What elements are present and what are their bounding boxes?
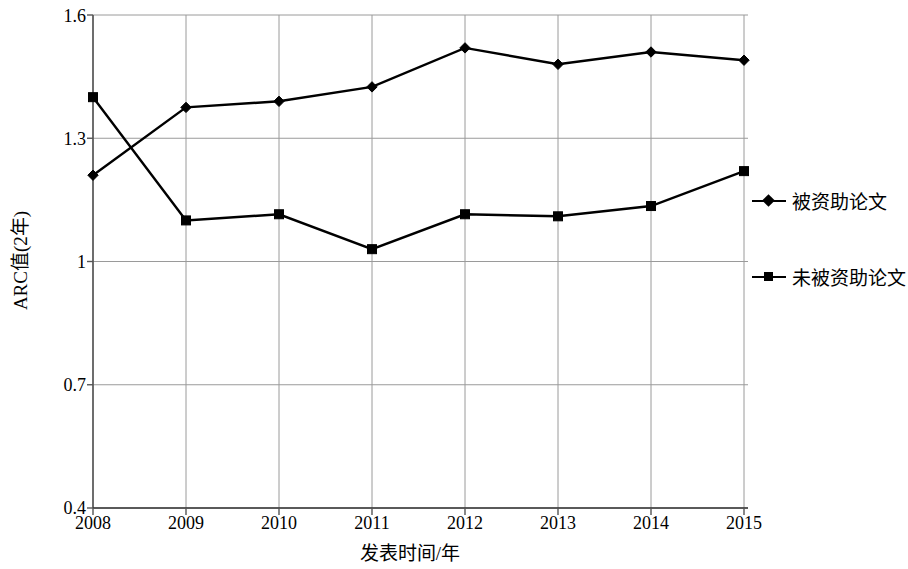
data-point-square [89, 93, 98, 102]
data-point-diamond [553, 59, 563, 69]
legend-item-unfunded[interactable]: 未被资助论文 [752, 263, 906, 290]
legend-item-funded[interactable]: 被资助论文 [752, 187, 887, 214]
legend-item-label: 未被资助论文 [792, 263, 906, 290]
series-line [93, 97, 744, 249]
data-series [89, 93, 749, 254]
data-point-square [275, 210, 284, 219]
data-point-diamond [460, 43, 470, 53]
diamond-marker-icon [752, 194, 786, 208]
data-point-square [554, 212, 563, 221]
data-series [88, 43, 749, 181]
data-point-diamond [274, 96, 284, 106]
data-series-layer [88, 43, 749, 254]
square-marker-icon [752, 270, 786, 284]
legend: 被资助论文 未被资助论文 [752, 0, 908, 569]
data-point-square [461, 210, 470, 219]
chart-container: ARC值(2年) 1.6 1.3 1 0.7 0.4 2008 2009 201… [0, 0, 908, 569]
gridlines [93, 15, 748, 508]
data-point-square [740, 167, 749, 176]
data-point-diamond [367, 82, 377, 92]
data-point-square [182, 216, 191, 225]
series-line [93, 48, 744, 175]
data-point-diamond [739, 55, 749, 65]
data-point-square [647, 202, 656, 211]
data-point-diamond [646, 47, 656, 57]
data-point-square [368, 245, 377, 254]
legend-item-label: 被资助论文 [792, 187, 887, 214]
